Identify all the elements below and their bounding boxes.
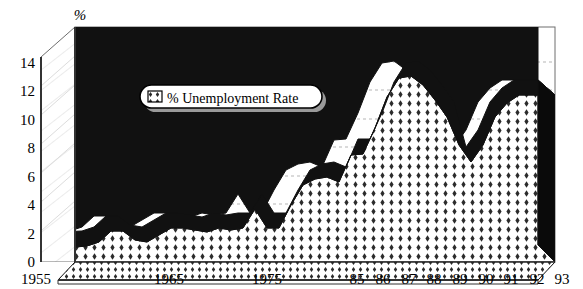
x-tick-label: 1965 — [154, 271, 184, 287]
x-tick-label: 93 — [555, 271, 570, 287]
y-tick-label: 2 — [28, 226, 36, 242]
legend-label: % Unemployment Rate — [167, 91, 298, 106]
y-axis-ticks: 14 12 10 8 6 4 2 0 — [20, 55, 36, 270]
y-tick-label: 8 — [28, 140, 36, 156]
x-tick-label: 89 — [453, 271, 468, 287]
x-tick-label: 90 — [479, 271, 494, 287]
x-tick-label: 85 — [350, 271, 365, 287]
legend-swatch-icon — [148, 91, 162, 102]
x-tick-label: 1955 — [21, 271, 51, 287]
y-tick-label: 4 — [28, 197, 36, 213]
x-tick-label: 88 — [427, 271, 442, 287]
y-tick-label: 6 — [28, 169, 36, 185]
unemployment-area-chart: 14 12 10 8 6 4 2 0 % 1955 1965 1975 85 8… — [0, 0, 583, 289]
chart-legend[interactable]: % Unemployment Rate — [140, 85, 326, 112]
y-axis-title: % — [74, 7, 87, 23]
y-tick-label: 0 — [28, 254, 36, 270]
x-tick-label: 91 — [504, 271, 519, 287]
x-tick-label: 92 — [530, 271, 545, 287]
y-tick-label: 10 — [20, 112, 35, 128]
x-tick-label: 86 — [376, 271, 392, 287]
x-tick-label: 87 — [402, 271, 418, 287]
series-right-endcap-shadow — [538, 80, 555, 262]
y-tick-label: 14 — [20, 55, 36, 71]
chart-svg: 14 12 10 8 6 4 2 0 % 1955 1965 1975 85 8… — [0, 0, 583, 289]
x-tick-label: 1975 — [252, 271, 282, 287]
data-area-group — [58, 12, 555, 262]
y-tick-label: 12 — [20, 83, 35, 99]
